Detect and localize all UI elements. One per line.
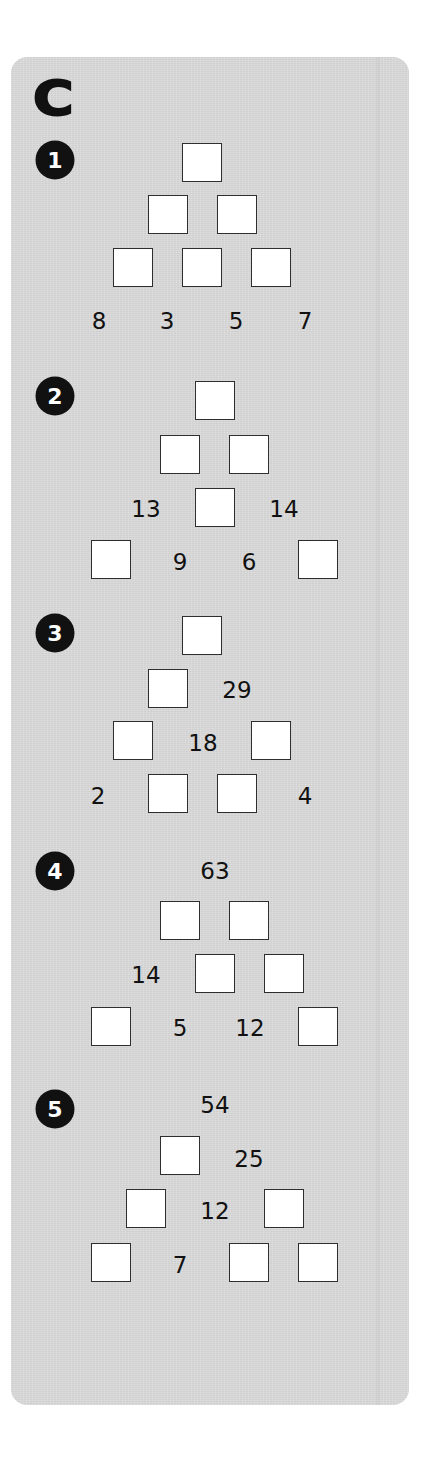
given-number: 14 — [131, 964, 160, 987]
answer-box[interactable] — [113, 721, 153, 760]
puzzle-number-badge: 2 — [36, 377, 75, 416]
answer-box[interactable] — [251, 248, 291, 287]
answer-box[interactable] — [160, 435, 200, 474]
puzzle-number-badge: 1 — [36, 141, 75, 180]
answer-box[interactable] — [160, 1136, 200, 1175]
answer-box[interactable] — [148, 774, 188, 813]
given-number: 13 — [131, 498, 160, 521]
given-number: 14 — [269, 498, 298, 521]
answer-box[interactable] — [229, 435, 269, 474]
given-number: 7 — [173, 1254, 188, 1277]
answer-box[interactable] — [113, 248, 153, 287]
answer-box[interactable] — [91, 1007, 131, 1046]
given-number: 25 — [234, 1148, 263, 1171]
given-number: 9 — [173, 551, 188, 574]
given-number: 6 — [242, 551, 257, 574]
answer-box[interactable] — [91, 540, 131, 579]
answer-box[interactable] — [298, 1243, 338, 1282]
given-number: 4 — [298, 785, 313, 808]
answer-box[interactable] — [264, 954, 304, 993]
given-number: 29 — [222, 679, 251, 702]
answer-box[interactable] — [148, 669, 188, 708]
answer-box[interactable] — [148, 195, 188, 234]
given-number: 12 — [200, 1200, 229, 1223]
answer-box[interactable] — [195, 954, 235, 993]
given-number: 2 — [91, 785, 106, 808]
section-letter-heading: C — [33, 74, 74, 122]
answer-box[interactable] — [160, 901, 200, 940]
answer-box[interactable] — [195, 488, 235, 527]
answer-box[interactable] — [195, 381, 235, 420]
given-number: 3 — [160, 310, 175, 333]
puzzle-number-badge: 4 — [36, 852, 75, 891]
given-number: 7 — [298, 310, 313, 333]
answer-box[interactable] — [229, 901, 269, 940]
answer-box[interactable] — [298, 540, 338, 579]
answer-box[interactable] — [217, 774, 257, 813]
answer-box[interactable] — [217, 195, 257, 234]
given-number: 18 — [188, 732, 217, 755]
answer-box[interactable] — [91, 1243, 131, 1282]
given-number: 5 — [229, 310, 244, 333]
answer-box[interactable] — [182, 143, 222, 182]
answer-box[interactable] — [298, 1007, 338, 1046]
answer-box[interactable] — [182, 616, 222, 655]
paper-streak — [376, 57, 380, 1405]
answer-box[interactable] — [251, 721, 291, 760]
answer-box[interactable] — [229, 1243, 269, 1282]
given-number: 63 — [200, 860, 229, 883]
given-number: 12 — [235, 1017, 264, 1040]
answer-box[interactable] — [182, 248, 222, 287]
given-number: 54 — [200, 1094, 229, 1117]
given-number: 8 — [92, 310, 107, 333]
answer-box[interactable] — [264, 1189, 304, 1228]
puzzle-number-badge: 5 — [36, 1090, 75, 1129]
given-number: 5 — [173, 1017, 188, 1040]
answer-box[interactable] — [126, 1189, 166, 1228]
puzzle-number-badge: 3 — [36, 614, 75, 653]
